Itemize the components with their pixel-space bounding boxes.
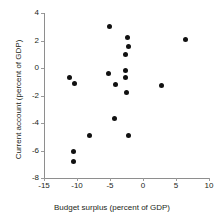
data-point [123,52,128,57]
x-axis-line [44,178,209,179]
scatter-chart: 420-2-4-6-8 -15-10-50510 Current account… [0,0,224,224]
x-tick-label: -5 [98,181,122,190]
data-point [183,37,188,42]
y-tick-mark [41,13,44,14]
y-tick-mark [41,68,44,69]
y-tick-label: 4 [1,9,39,17]
x-tick-label: 0 [131,181,155,190]
data-point [126,133,131,138]
data-point [107,24,112,29]
data-point [123,68,128,73]
data-point [126,44,131,49]
x-tick-label: 10 [197,181,221,190]
data-point [87,133,92,138]
data-point [67,75,72,80]
y-axis-title-wrap: Current account (percent of GDP) [0,88,94,106]
y-tick-mark [41,123,44,124]
data-point [113,82,118,87]
x-tick-label: 5 [164,181,188,190]
data-point [124,90,129,95]
x-tick-label: -15 [32,181,56,190]
data-point [123,75,128,80]
data-point [72,81,77,86]
data-point [125,35,130,40]
y-tick-mark [41,41,44,42]
data-point [71,149,76,154]
data-point [71,159,76,164]
data-point [159,83,164,88]
x-tick-label: -10 [65,181,89,190]
y-tick-mark [41,151,44,152]
data-point [106,71,111,76]
data-point [112,116,117,121]
x-axis-title: Budget surplus (percent of GDP) [0,203,224,212]
y-axis-title: Current account (percent of GDP) [14,40,23,160]
